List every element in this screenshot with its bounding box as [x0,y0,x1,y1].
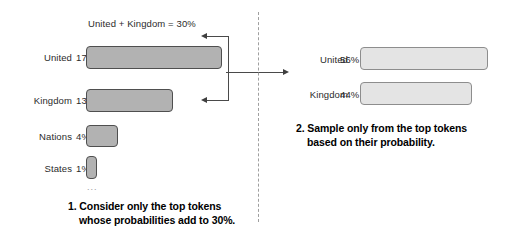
bracket-arm-top [207,36,229,37]
left-caption: 1. Consider only the top tokens whose pr… [68,200,235,227]
bracket-arrow-top [201,33,207,39]
left-bar-nations [86,125,118,147]
right-bar-united [360,47,488,70]
left-bar-kingdom [86,89,173,112]
left-caption-line1: 1. Consider only the top tokens [68,200,221,212]
right-bar-kingdom [360,82,472,105]
right-caption-line2: based on their probability. [296,136,467,150]
left-bar-states [86,156,97,179]
left-caption-line2: whose probabilities add to 30%. [68,214,235,228]
right-bar-label-kingdom: Kingdom [288,89,348,100]
left-ellipsis: ... [87,182,98,192]
right-caption-line1: 2. Sample only from the top tokens [296,122,467,134]
left-bar-label-united: United [10,52,72,63]
left-bar-label-kingdom: Kingdom [10,95,72,106]
bracket-arm-bottom [207,100,229,101]
right-caption: 2. Sample only from the top tokens based… [296,122,467,149]
sum-label: United + Kingdom = 30% [88,18,196,29]
left-bar-label-states: States [10,163,72,174]
right-panel: United 56% Kingdom 44% 2. Sample only fr… [258,0,507,232]
figure-canvas: United + Kingdom = 30% United 17% Kingdo… [0,0,507,232]
bracket-arrow-bottom [201,97,207,103]
left-bar-label-nations: Nations [10,131,72,142]
